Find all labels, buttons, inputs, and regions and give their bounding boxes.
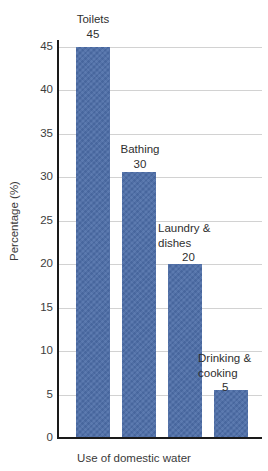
bar-label-toilets-value: 45 [56, 27, 130, 42]
y-tick-45: 45 [13, 41, 53, 53]
y-axis-line [57, 40, 59, 439]
bar-bathing [122, 172, 156, 438]
bar-drinking [214, 390, 248, 438]
bar-label-toilets: Toilets 45 [56, 12, 130, 41]
bar-label-laundry-name-1: Laundry & [158, 222, 210, 234]
bar-label-laundry-value: 20 [158, 250, 244, 265]
x-axis-title: Use of domestic water [0, 452, 268, 464]
bar-label-bathing-value: 30 [103, 157, 177, 172]
y-tick-40: 40 [13, 84, 53, 96]
x-axis-line [59, 437, 262, 439]
bar-label-bathing-name: Bathing [120, 143, 159, 155]
y-tick-10: 10 [13, 345, 53, 357]
bar-label-drinking-name-2: cooking [198, 367, 238, 379]
bar-label-laundry-name-2: dishes [158, 237, 191, 249]
y-tick-15: 15 [13, 302, 53, 314]
bar-label-bathing: Bathing 30 [103, 142, 177, 171]
bar-label-drinking: Drinking & cooking 5 [198, 351, 268, 395]
y-tick-35: 35 [13, 128, 53, 140]
bar-laundry [168, 264, 202, 438]
bar-label-toilets-name: Toilets [77, 13, 110, 25]
bar-chart: 45 40 35 30 25 20 15 10 5 0 Toilets 45 B… [0, 0, 268, 471]
bar-label-drinking-name-1: Drinking & [198, 352, 251, 364]
y-tick-0: 0 [13, 432, 53, 444]
bar-label-drinking-value: 5 [198, 380, 268, 395]
y-tick-5: 5 [13, 389, 53, 401]
y-axis-title: Percentage (%) [8, 161, 20, 281]
bar-label-laundry: Laundry & dishes 20 [158, 221, 244, 265]
bar-toilets [76, 47, 110, 438]
